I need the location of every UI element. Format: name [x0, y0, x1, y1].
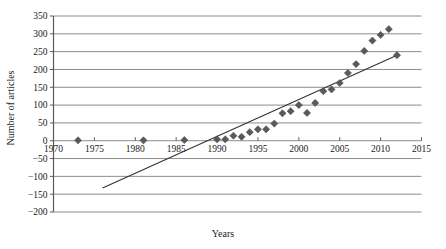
- scatter-chart: −200−150−100−50050100150200250300350 197…: [0, 0, 446, 249]
- y-tick-label: 350: [33, 11, 48, 21]
- x-tick-label: 1990: [208, 144, 227, 154]
- y-tick-label: 50: [38, 118, 48, 128]
- y-tick-label: −150: [28, 190, 48, 200]
- y-tick-label: 150: [33, 83, 48, 93]
- y-tick-label: 250: [33, 47, 48, 57]
- x-tick-label: 2015: [412, 144, 431, 154]
- x-tick-label: 2005: [330, 144, 349, 154]
- x-tick-label: 1985: [167, 144, 186, 154]
- y-tick-label: −200: [28, 207, 48, 217]
- y-tick-label: 100: [33, 100, 48, 110]
- y-axis-title: Number of articles: [5, 70, 16, 145]
- y-tick-label: 300: [33, 29, 48, 39]
- x-tick-label: 1970: [44, 144, 63, 154]
- y-tick-label: 200: [33, 65, 48, 75]
- x-axis-title: Years: [212, 228, 234, 239]
- y-tick-label: −50: [33, 154, 48, 164]
- chart-canvas: −200−150−100−50050100150200250300350 197…: [0, 0, 446, 249]
- x-tick-label: 1995: [248, 144, 267, 154]
- x-tick-label: 2000: [289, 144, 308, 154]
- x-tick-label: 1980: [126, 144, 145, 154]
- x-tick-label: 2010: [371, 144, 390, 154]
- y-tick-label: −100: [28, 172, 48, 182]
- x-tick-label: 1975: [85, 144, 104, 154]
